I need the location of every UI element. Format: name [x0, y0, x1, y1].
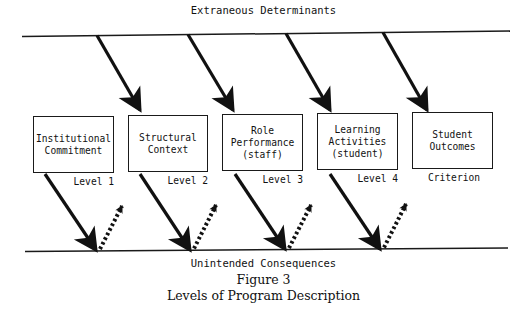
inbound-arrow-1: [97, 36, 140, 111]
inbound-arrow-group: [97, 33, 427, 111]
top-axis-label: Extraneous Determinants: [0, 5, 527, 16]
figure-caption-title: Levels of Program Description: [0, 288, 527, 303]
feedback-arrow-2: [194, 205, 216, 249]
bottom-axis-line: [25, 248, 508, 252]
node-box-role-performance[interactable]: Role Performance (staff): [222, 114, 303, 171]
inbound-arrow-2: [188, 35, 233, 111]
node-box-learning-activities[interactable]: Learning Activities (student): [317, 113, 398, 170]
top-axis-line: [22, 31, 510, 37]
figure-container: Extraneous Determinants Institutional Co…: [0, 0, 527, 313]
level-label-4: Level 4: [338, 173, 398, 184]
node-label: Institutional Commitment: [36, 133, 111, 157]
feedback-arrow-1: [100, 206, 122, 249]
node-label: Student Outcomes: [429, 129, 475, 153]
feedback-arrow-4: [384, 204, 406, 248]
level-label-3: Level 3: [243, 174, 303, 185]
figure-caption-number: Figure 3: [0, 272, 527, 287]
level-label-criterion: Criterion: [415, 172, 493, 183]
node-box-institutional-commitment[interactable]: Institutional Commitment: [33, 116, 114, 173]
outbound-arrow-4: [330, 174, 380, 249]
feedback-arrow-3: [289, 205, 311, 248]
node-box-student-outcomes[interactable]: Student Outcomes: [412, 112, 493, 169]
level-label-1: Level 1: [54, 176, 114, 187]
node-label: Structural Context: [139, 132, 197, 156]
node-box-structural-context[interactable]: Structural Context: [128, 115, 208, 172]
inbound-arrow-4: [383, 33, 427, 111]
bottom-axis-label: Unintended Consequences: [0, 258, 527, 269]
level-label-2: Level 2: [148, 175, 208, 186]
feedback-arrow-group: [100, 204, 406, 249]
inbound-arrow-3: [286, 34, 330, 111]
outbound-arrow-3: [235, 174, 285, 249]
node-label: Role Performance (staff): [231, 125, 295, 161]
node-label: Learning Activities (student): [329, 124, 387, 160]
